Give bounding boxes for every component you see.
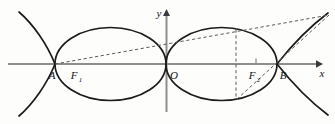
geometry-figure: A F 1 O F 2 B x y [0,0,335,124]
figure-canvas: A F 1 O F 2 B x y [0,0,335,124]
label-point-B: B [280,69,287,81]
label-x-axis: x [319,67,325,79]
label-point-F2-subscript: 2 [257,76,261,84]
dashed-lines-group [55,15,329,100]
label-point-F1: F [70,69,78,81]
y-axis-arrow-icon [163,9,170,16]
label-y-axis: y [156,7,162,19]
labels-group: A F 1 O F 2 B x y [48,7,325,84]
label-point-F1-subscript: 1 [79,76,83,84]
label-point-F2: F [248,69,256,81]
label-point-A: A [48,69,56,81]
dashed-chord-from-A [55,15,329,64]
label-origin-O: O [170,69,178,81]
